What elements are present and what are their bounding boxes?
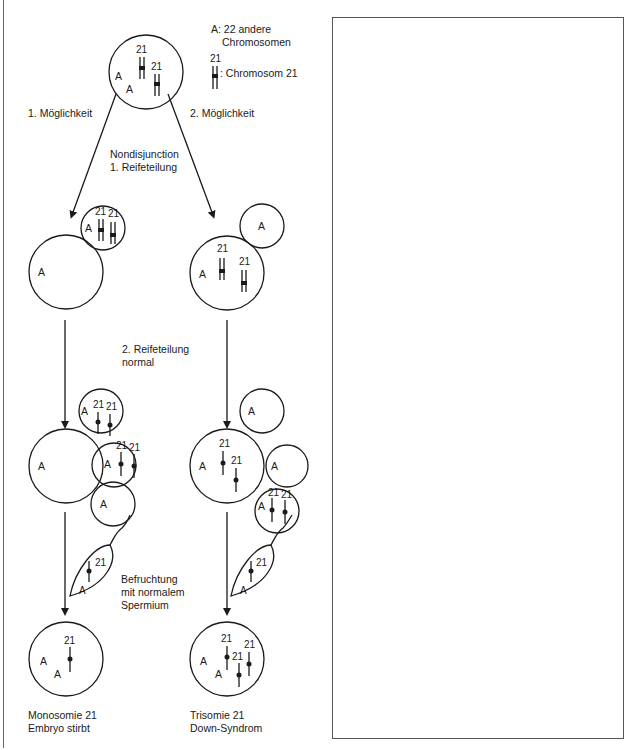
chromosome-21-double-icon: [139, 57, 145, 79]
svg-text:21: 21: [221, 633, 233, 644]
chromosome-21-double-icon: [154, 74, 160, 96]
svg-text:21: 21: [129, 442, 141, 453]
svg-text:A: A: [79, 585, 86, 596]
svg-text:21: 21: [239, 256, 251, 267]
svg-text:21: 21: [244, 639, 256, 650]
legend-chr-label: : Chromosom 21: [220, 67, 298, 79]
svg-text:A: A: [248, 405, 255, 417]
fertilization-label-line2: mit normalem: [121, 586, 185, 598]
svg-text:A: A: [85, 222, 92, 234]
legend: A: 22 andere Chromosomen 21 : Chromosom …: [210, 23, 298, 89]
zygote-monosomy: A A 21: [29, 622, 103, 696]
legend-a-label-line2: Chromosomen: [222, 36, 291, 48]
svg-text:A: A: [54, 668, 61, 680]
path-2-label: 2. Möglichkeit: [190, 107, 254, 119]
second-division-normal-label: normal: [122, 356, 154, 368]
label-21: 21: [136, 44, 148, 55]
svg-text:A: A: [199, 268, 206, 280]
svg-text:A: A: [200, 655, 207, 667]
svg-text:21: 21: [232, 651, 244, 662]
svg-text:21: 21: [231, 455, 243, 466]
label-21: 21: [151, 61, 163, 72]
result-right-label: Trisomie 21: [190, 709, 245, 721]
svg-text:A: A: [271, 460, 278, 472]
svg-text:21: 21: [108, 208, 120, 219]
svg-text:A: A: [258, 500, 265, 512]
legend-a-label: A: 22 andere: [211, 23, 271, 35]
fertilization-label: Befruchtung: [121, 573, 178, 585]
parent-cell: A A 21 21: [109, 35, 183, 109]
svg-text:A: A: [40, 655, 47, 667]
svg-text:21: 21: [64, 635, 76, 646]
svg-text:21: 21: [256, 557, 268, 568]
svg-text:A: A: [104, 458, 111, 470]
svg-text:A: A: [81, 405, 88, 417]
svg-text:21: 21: [116, 440, 128, 451]
svg-text:A: A: [100, 498, 107, 510]
path-1-label: 1. Möglichkeit: [28, 107, 92, 119]
result-left-label-line2: Embryo stirbt: [28, 722, 90, 734]
path-1-after-first-division: A A 21 21: [29, 206, 125, 309]
chromosome-21-legend-icon: [212, 66, 218, 89]
result-left-label: Monosomie 21: [28, 709, 97, 721]
path-2-after-first-division: A A 21 21: [190, 204, 284, 310]
fertilization-label-line3: Spermium: [121, 599, 169, 611]
svg-text:A: A: [215, 668, 222, 680]
svg-text:21: 21: [268, 487, 280, 498]
nondisjunction-label: Nondisjunction: [110, 148, 179, 160]
path-2-after-second-division: A A 21 21 A A 21 21: [190, 389, 308, 533]
svg-text:A: A: [258, 220, 265, 232]
svg-text:21: 21: [219, 438, 231, 449]
label-a: A: [126, 83, 133, 95]
svg-text:A: A: [38, 460, 45, 472]
result-right-label-line2: Down-Syndrom: [190, 722, 263, 734]
answer-box[interactable]: [332, 17, 624, 739]
svg-text:21: 21: [281, 489, 293, 500]
svg-text:A: A: [240, 585, 247, 596]
first-division-label: 1. Reifeteilung: [110, 161, 177, 173]
svg-text:21: 21: [95, 557, 107, 568]
svg-text:21: 21: [217, 243, 229, 254]
svg-text:A: A: [38, 266, 45, 278]
second-division-label: 2. Reifeteilung: [122, 343, 189, 355]
svg-text:21: 21: [95, 206, 107, 217]
svg-text:21: 21: [93, 399, 105, 410]
label-a: A: [115, 70, 122, 82]
legend-chr-number: 21: [210, 53, 222, 64]
zygote-trisomy: A A 21 21 21: [190, 622, 264, 696]
svg-text:21: 21: [106, 401, 118, 412]
path-1-after-second-division: A A 21 21 A 21 21 A: [29, 389, 141, 526]
svg-text:A: A: [199, 460, 206, 472]
